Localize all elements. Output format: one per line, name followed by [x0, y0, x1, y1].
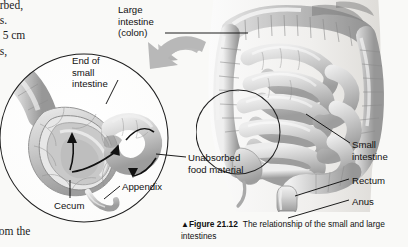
torso-illustration — [196, 0, 383, 228]
body-text-bottom-fragment: rom the — [0, 224, 30, 239]
label-end-of-small-intestine: End of small intestine — [72, 55, 108, 90]
caption-figure-number: Figure 21.12 — [189, 219, 238, 229]
label-cecum: Cecum — [54, 200, 84, 212]
label-appendix: Appendix — [122, 181, 162, 193]
label-large-intestine: Large intestine (colon) — [118, 4, 154, 39]
label-anus: Anus — [352, 196, 374, 208]
caption-triangle-icon: ▲ — [181, 220, 189, 229]
label-unabsorbed-food-material: Unabsorbed food material — [188, 152, 243, 175]
curved-block-arrow-icon — [148, 36, 206, 69]
body-text-top-fragment: orbed, ns. d 5 cm vs, — [0, 0, 25, 59]
figure-page: orbed, ns. d 5 cm vs, rom the Large inte… — [0, 0, 408, 247]
label-small-intestine: Small intestine — [352, 139, 388, 162]
figure-caption: ▲Figure 21.12The relationship of the sma… — [181, 219, 408, 241]
label-rectum: Rectum — [352, 175, 385, 187]
